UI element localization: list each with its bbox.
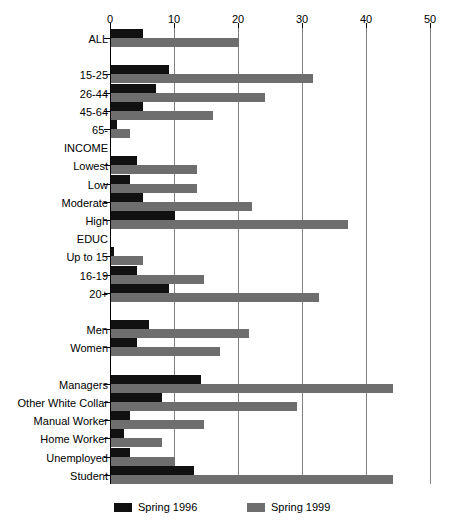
chart-rows: ALL15-2526-4445-6465-INCOMELowestLowMode…: [0, 0, 450, 525]
bar-spring-1996: [111, 466, 194, 475]
bar-spring-1996: [111, 393, 162, 402]
row-label: Lowest: [73, 160, 108, 173]
bar-spring-1996: [111, 29, 143, 38]
row-label: 65-: [92, 124, 108, 137]
chart-legend: Spring 1996Spring 1999: [0, 500, 450, 516]
row-label: Manual Worker: [34, 415, 108, 428]
legend-item: Spring 1996: [114, 500, 197, 514]
legend-label: Spring 1996: [138, 501, 197, 513]
row-tickmark: [104, 457, 110, 458]
bar-spring-1996: [111, 65, 169, 74]
horizontal-bar-chart: 01020304050 ALL15-2526-4445-6465-INCOMEL…: [0, 0, 450, 525]
bar-spring-1996: [111, 120, 117, 129]
row-label: Women: [70, 342, 108, 355]
row-label: 45-64: [80, 106, 108, 119]
bar-spring-1996: [111, 156, 137, 165]
row-label: Student: [70, 470, 108, 483]
row-label: Low: [88, 179, 108, 192]
row-tickmark: [104, 74, 110, 75]
bar-spring-1996: [111, 102, 143, 111]
row-tickmark: [104, 329, 110, 330]
bar-spring-1996: [111, 211, 175, 220]
row-label: EDUC: [77, 233, 108, 246]
legend-label: Spring 1999: [271, 501, 330, 513]
row-label: Moderate: [62, 197, 108, 210]
bar-spring-1996: [111, 193, 143, 202]
row-tickmark: [104, 111, 110, 112]
row-tickmark: [104, 438, 110, 439]
bar-spring-1996: [111, 320, 149, 329]
row-label: 16-19: [80, 270, 108, 283]
bar-spring-1996: [111, 338, 137, 347]
legend-item: Spring 1999: [247, 500, 330, 514]
row-tickmark: [104, 293, 110, 294]
row-label: Unemployed: [46, 452, 108, 465]
bar-spring-1996: [111, 429, 124, 438]
row-tickmark: [104, 256, 110, 257]
row-tickmark: [104, 184, 110, 185]
row-tickmark: [104, 402, 110, 403]
row-label: 20+: [89, 288, 108, 301]
bar-spring-1996: [111, 448, 130, 457]
bar-spring-1996: [111, 266, 137, 275]
row-label: ALL: [88, 33, 108, 46]
legend-swatch: [114, 503, 132, 512]
bar-spring-1996: [111, 284, 169, 293]
row-tickmark: [104, 384, 110, 385]
bar-spring-1996: [111, 84, 156, 93]
row-label: Men: [87, 324, 108, 337]
bar-spring-1996: [111, 375, 201, 384]
row-label: Home Worker: [40, 433, 108, 446]
row-label: Other White Collar: [18, 397, 108, 410]
bar-spring-1996: [111, 175, 130, 184]
row-label: 15-25: [80, 69, 108, 82]
row-tickmark: [104, 347, 110, 348]
chart-row: Student: [0, 465, 450, 486]
row-tickmark: [104, 220, 110, 221]
row-tickmark: [104, 93, 110, 94]
row-tickmark: [104, 420, 110, 421]
row-tickmark: [104, 129, 110, 130]
row-label: Up to 15: [66, 251, 108, 264]
bar-spring-1999: [111, 475, 393, 484]
legend-swatch: [247, 503, 265, 512]
row-tickmark: [104, 165, 110, 166]
row-tickmark: [104, 38, 110, 39]
bar-spring-1996: [111, 247, 114, 256]
row-label: 26-44: [80, 88, 108, 101]
row-label: High: [85, 215, 108, 228]
bar-spring-1996: [111, 411, 130, 420]
row-tickmark: [104, 475, 110, 476]
row-tickmark: [104, 275, 110, 276]
row-tickmark: [104, 202, 110, 203]
row-label: Managers: [59, 379, 108, 392]
row-label: INCOME: [64, 142, 108, 155]
